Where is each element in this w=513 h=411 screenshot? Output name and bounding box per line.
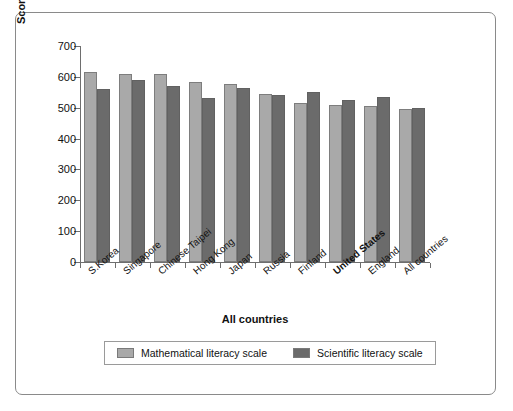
legend-label: Mathematical literacy scale [141, 347, 267, 359]
x-tick-mark [150, 263, 151, 268]
x-tick-mark [80, 263, 81, 268]
y-tick-label: 700 [58, 38, 76, 54]
x-tick-mark [115, 263, 116, 268]
y-axis-title: Scores on math and science literacy scal… [14, 0, 42, 39]
x-tick-mark [325, 263, 326, 268]
bar-math [329, 105, 342, 262]
bar-math [119, 74, 132, 262]
bar-science [307, 92, 320, 262]
x-tick-mark [220, 263, 221, 268]
y-axis-line [80, 46, 81, 263]
bar-science [132, 80, 145, 262]
bar-science [272, 95, 285, 262]
y-tick-label: 500 [58, 100, 76, 116]
y-tick-label: 0 [70, 254, 76, 270]
bar-science [342, 100, 355, 262]
y-tick-label: 400 [58, 131, 76, 147]
bar-science [412, 108, 425, 262]
legend-label: Scientific literacy scale [317, 347, 423, 359]
x-axis-title: All countries [80, 313, 430, 325]
bar-math [259, 94, 272, 262]
legend-swatch-sci [293, 348, 310, 358]
x-tick-mark [185, 263, 186, 268]
x-tick-mark [360, 263, 361, 268]
y-tick-label: 300 [58, 161, 76, 177]
legend-item: Mathematical literacy scale [117, 347, 267, 359]
x-tick-mark [430, 263, 431, 268]
bar-science [167, 86, 180, 262]
bar-math [399, 109, 412, 262]
chart-legend: Mathematical literacy scaleScientific li… [104, 341, 436, 365]
x-tick-mark [395, 263, 396, 268]
plot-area: 0100200300400500600700 S.KoreaSingaporeC… [80, 46, 430, 263]
bar-science [237, 88, 250, 262]
bar-math [84, 72, 97, 262]
y-tick-label: 200 [58, 192, 76, 208]
legend-swatch-math [117, 348, 134, 358]
bar-math [224, 84, 237, 262]
legend-item: Scientific literacy scale [293, 347, 423, 359]
bar-science [97, 89, 110, 262]
chart-frame: Scores on math and science literacy scal… [15, 12, 496, 395]
y-tick-label: 600 [58, 69, 76, 85]
y-tick-label: 100 [58, 223, 76, 239]
x-tick-mark [255, 263, 256, 268]
bar-math [154, 74, 167, 262]
bar-math [294, 103, 307, 262]
x-tick-mark [290, 263, 291, 268]
